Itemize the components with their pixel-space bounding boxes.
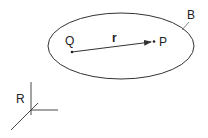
point-p-dot xyxy=(153,40,156,43)
region-b-label: B xyxy=(187,8,195,22)
region-b-leader xyxy=(182,22,189,30)
reference-frame-axes xyxy=(11,82,58,130)
frame-r-label: R xyxy=(16,92,25,106)
point-q-dot xyxy=(71,51,74,54)
point-p-label: P xyxy=(159,35,167,49)
diagram-canvas: B Q r P R xyxy=(0,0,208,138)
vector-r-label: r xyxy=(112,31,117,45)
point-q-label: Q xyxy=(65,34,74,48)
